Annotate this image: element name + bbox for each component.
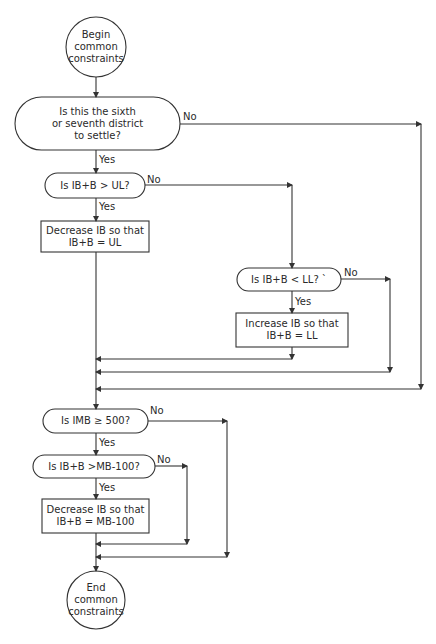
imb-yes-label: Yes: [99, 437, 115, 449]
ul-no-label: No: [147, 174, 161, 186]
end-node: End common constraints: [67, 571, 125, 629]
district-yes-label: Yes: [99, 154, 115, 166]
increase-ll-box: Increase IB so that IB+B = LL: [236, 313, 348, 347]
decrease-mb-box: Decrease IB so that IB+B = MB-100: [42, 499, 149, 533]
ul-decision: Is IB+B > UL?: [45, 173, 145, 198]
ll-no-label: No: [344, 267, 358, 279]
imb-no-label: No: [150, 405, 164, 417]
district-no-label: No: [183, 111, 197, 123]
ul-yes-label: Yes: [99, 201, 115, 213]
ll-yes-label: Yes: [295, 296, 311, 308]
mb-no-label: No: [157, 454, 171, 466]
imb-decision: Is IMB ≥ 500?: [43, 409, 148, 433]
begin-node: Begin common constraints: [66, 17, 126, 77]
decrease-ul-box: Decrease IB so that IB+B = UL: [41, 221, 149, 252]
district-decision: Is this the sixth or seventh district to…: [15, 97, 180, 150]
mb-decision: Is IB+B >MB-100?: [33, 455, 155, 478]
ll-decision: Is IB+B < LL? `: [237, 268, 341, 291]
mb-yes-label: Yes: [99, 482, 115, 494]
